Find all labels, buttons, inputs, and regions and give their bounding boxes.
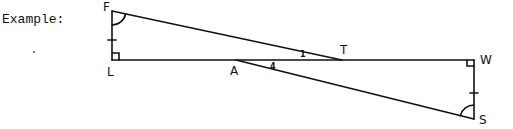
- angle-number-4: 4: [270, 62, 276, 71]
- point-label-f: F: [103, 0, 110, 14]
- angle-arc-s: [460, 105, 474, 116]
- geometry-figure: F L A T W S 1 4: [0, 0, 513, 129]
- angle-number-1: 1: [300, 50, 306, 59]
- right-angle-mark-w: [467, 60, 474, 66]
- point-label-s: S: [479, 113, 487, 127]
- point-label-a: A: [230, 64, 239, 78]
- point-label-t: T: [339, 43, 348, 57]
- point-label-w: W: [480, 53, 492, 67]
- point-label-l: L: [107, 65, 114, 79]
- angle-arc-f: [112, 14, 126, 25]
- segment-ft: [112, 11, 342, 60]
- right-angle-mark-l: [112, 53, 119, 60]
